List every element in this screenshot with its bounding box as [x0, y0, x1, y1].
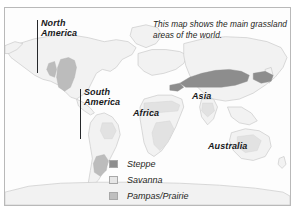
map-legend: Steppe Savanna Pampas/Prairie: [109, 156, 219, 204]
legend-item-steppe: Steppe: [109, 156, 219, 172]
map-caption: This map shows the main grassland areas …: [153, 19, 291, 41]
legend-swatch-pampas-prairie: [109, 192, 118, 200]
legend-item-savanna: Savanna: [109, 172, 219, 188]
map-label-north-america: North America: [41, 18, 77, 38]
legend-label-savanna: Savanna: [127, 175, 163, 185]
figure-page: .land { fill: #f2f2f2; stroke: #cacaca; …: [0, 0, 296, 219]
legend-label-steppe: Steppe: [127, 159, 156, 169]
leader-line-south-america: [80, 89, 81, 139]
legend-swatch-savanna: [109, 176, 118, 184]
map-label-africa: Africa: [133, 108, 159, 118]
map-label-australia: Australia: [208, 141, 247, 151]
legend-label-pampas-prairie: Pampas/Prairie: [127, 191, 189, 201]
leader-line-north-america: [37, 20, 38, 73]
legend-swatch-steppe: [109, 160, 118, 168]
map-figure-frame: .land { fill: #f2f2f2; stroke: #cacaca; …: [4, 7, 291, 206]
map-label-south-america: South America: [84, 87, 120, 107]
legend-item-pampas-prairie: Pampas/Prairie: [109, 188, 219, 204]
map-label-asia: Asia: [192, 91, 211, 101]
